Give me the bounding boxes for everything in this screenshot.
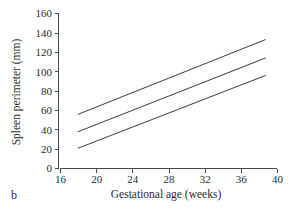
y-tick-label: 80 [41, 85, 53, 97]
y-tick-label: 160 [36, 7, 53, 19]
y-tick-label: 100 [36, 66, 53, 78]
y-tick-label: 40 [41, 124, 53, 136]
y-tick-label: 60 [41, 104, 53, 116]
y-axis-title: Spleen perimeter (mm) [10, 39, 23, 146]
x-tick-label: 28 [164, 173, 176, 185]
x-tick-label: 40 [272, 173, 284, 185]
y-tick-label: 0 [47, 162, 53, 174]
y-tick-label: 20 [41, 143, 53, 155]
figure-panel-b: 0 20 40 60 80 100 120 140 160 16 20 24 2… [0, 0, 291, 212]
x-tick-label: 20 [91, 173, 103, 185]
x-tick-label: 32 [200, 173, 211, 185]
spleen-perimeter-line-chart: 0 20 40 60 80 100 120 140 160 16 20 24 2… [0, 0, 291, 212]
x-tick-label: 24 [127, 173, 139, 185]
x-axis-title: Gestational age (weeks) [111, 188, 222, 201]
panel-label: b [11, 188, 17, 202]
x-tick-label: 16 [55, 173, 67, 185]
y-tick-label: 140 [36, 27, 53, 39]
y-tick-label: 120 [36, 46, 53, 58]
x-tick-label: 36 [236, 173, 248, 185]
